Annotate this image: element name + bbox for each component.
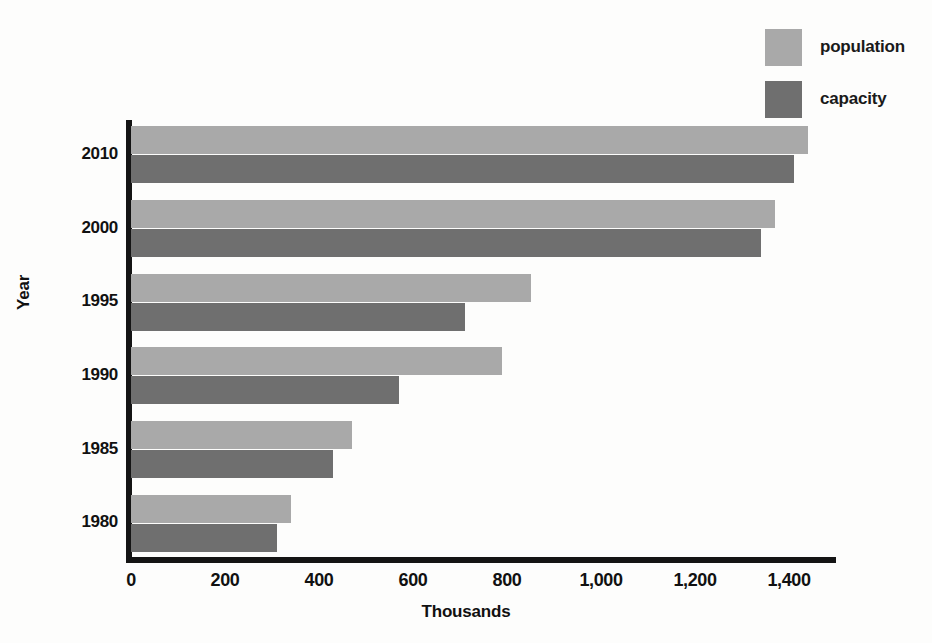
x-tick-label-0: 0 [126, 570, 136, 591]
bar-population-1995 [131, 274, 531, 302]
x-axis-title: Thousands [0, 602, 932, 622]
bar-population-2010 [131, 126, 808, 154]
x-tick-label-1200: 1,200 [673, 570, 716, 591]
y-tick-label-1990: 1990 [46, 365, 118, 385]
bar-capacity-1985 [131, 450, 333, 478]
bar-capacity-1980 [131, 524, 277, 552]
chart-legend: population capacity [765, 28, 925, 132]
x-tick-label-1400: 1,400 [767, 570, 810, 591]
x-axis-tick-labels: 02004006008001,0001,2001,400 [131, 570, 836, 596]
y-axis-title: Year [14, 275, 34, 310]
y-axis-tick-labels: 198019851990199520002010 [40, 120, 118, 562]
legend-swatch-capacity [765, 81, 802, 118]
legend-label-capacity: capacity [820, 89, 886, 109]
legend-label-population: population [820, 37, 905, 57]
x-tick-label-600: 600 [399, 570, 428, 591]
x-tick-label-400: 400 [305, 570, 334, 591]
bar-chart: population capacity 19801985199019952000… [0, 0, 932, 643]
y-tick-label-1995: 1995 [46, 291, 118, 311]
bar-capacity-2010 [131, 155, 794, 183]
legend-item-capacity: capacity [765, 80, 925, 118]
bar-capacity-1990 [131, 376, 399, 404]
legend-swatch-population [765, 29, 802, 66]
bar-capacity-1995 [131, 303, 465, 331]
bar-population-1985 [131, 421, 352, 449]
bar-population-1980 [131, 495, 291, 523]
bar-capacity-2000 [131, 229, 761, 257]
bar-population-2000 [131, 200, 775, 228]
plot-area [131, 120, 836, 562]
y-tick-label-1985: 1985 [46, 439, 118, 459]
legend-item-population: population [765, 28, 925, 66]
x-tick-label-800: 800 [493, 570, 522, 591]
bars-layer [131, 120, 836, 562]
y-tick-label-1980: 1980 [46, 512, 118, 532]
y-tick-label-2000: 2000 [46, 218, 118, 238]
x-tick-label-1000: 1,000 [579, 570, 622, 591]
y-tick-label-2010: 2010 [46, 144, 118, 164]
bar-population-1990 [131, 347, 502, 375]
x-tick-label-200: 200 [211, 570, 240, 591]
